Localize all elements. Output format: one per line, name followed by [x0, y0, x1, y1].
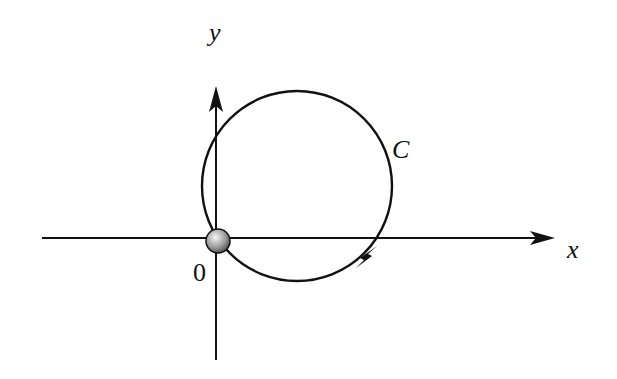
- diagram-canvas: [0, 0, 617, 379]
- x-axis: [42, 231, 555, 245]
- y-axis-label: y: [209, 18, 221, 48]
- particle-ball: [206, 229, 230, 253]
- y-axis: [209, 86, 223, 360]
- circle-path-c: [202, 91, 392, 281]
- curve-label: C: [392, 135, 409, 165]
- x-axis-label: x: [567, 235, 579, 265]
- origin-label: 0: [193, 258, 206, 288]
- diagram: y x C 0: [0, 0, 617, 379]
